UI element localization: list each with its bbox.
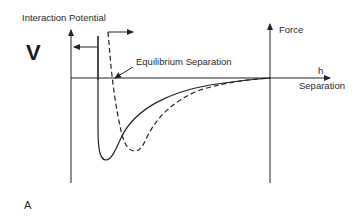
equilibrium-annotation: Equilibrium Separation bbox=[136, 56, 232, 67]
v-symbol: V bbox=[26, 40, 41, 66]
panel-label: A bbox=[24, 199, 31, 211]
y-axis-label: Interaction Potential bbox=[22, 12, 106, 23]
equilibrium-pointer bbox=[115, 67, 133, 78]
h-symbol: h bbox=[318, 65, 323, 76]
interaction-potential-diagram bbox=[0, 0, 360, 223]
x-axis-label: Separation bbox=[299, 80, 345, 91]
force-axis-label: Force bbox=[279, 24, 303, 35]
dashed-potential-curve bbox=[108, 32, 270, 151]
